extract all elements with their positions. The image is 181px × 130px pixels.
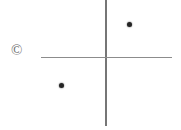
chart-type-label: scatter <box>0 0 1 1</box>
copyright-icon: © <box>11 43 22 58</box>
horizontal-axis-line <box>41 57 172 59</box>
data-point-lower-left <box>59 83 64 88</box>
vertical-axis-line <box>105 0 107 126</box>
data-point-upper-right <box>127 22 132 27</box>
figure-canvas: © scatter <box>0 0 181 130</box>
